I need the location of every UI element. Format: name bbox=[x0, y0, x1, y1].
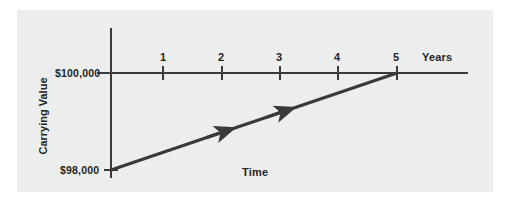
figure-container: Carrying Value $100,000 $98,000 1 2 3 4 … bbox=[0, 0, 510, 202]
trend-arrow-marker-1 bbox=[206, 131, 226, 138]
y-tick-label-98000: $98,000 bbox=[60, 164, 99, 176]
trend-arrow-marker-2 bbox=[266, 111, 286, 118]
x-tick-label-5: 5 bbox=[393, 51, 399, 63]
x-tick-label-3: 3 bbox=[276, 51, 282, 63]
x-axis-title-time: Time bbox=[242, 166, 268, 178]
y-tick-label-100000: $100,000 bbox=[55, 67, 100, 79]
x-axis-name-years: Years bbox=[422, 51, 452, 63]
x-tick-label-2: 2 bbox=[218, 51, 224, 63]
carrying-value-line bbox=[111, 73, 397, 170]
y-axis-title: Carrying Value bbox=[37, 56, 49, 176]
x-tick-label-1: 1 bbox=[160, 51, 166, 63]
x-tick-label-4: 4 bbox=[334, 51, 340, 63]
